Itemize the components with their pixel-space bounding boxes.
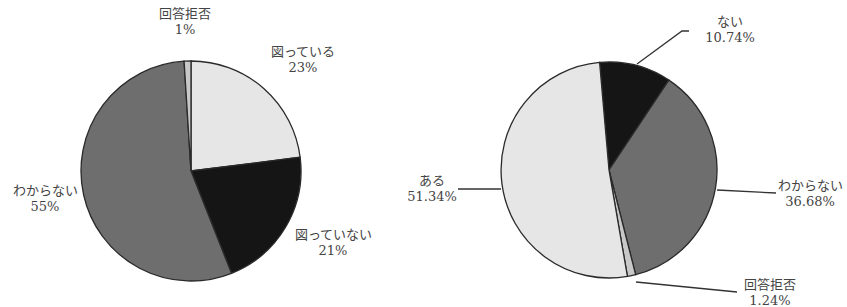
leader-line-kaito-kyohi [636, 282, 737, 292]
label-wakaranai-left: わからない55% [0, 183, 90, 215]
label-nai: ない10.74% [690, 14, 770, 46]
label-aru: ある51.34% [402, 173, 462, 205]
pie-slice [191, 61, 300, 171]
label-hakatte-iru: 図っている23% [253, 44, 353, 76]
label-wakaranai-right: わからない36.68% [770, 178, 847, 210]
pie-chart-left [81, 61, 301, 281]
label-hakatte-inai: 図っていない21% [278, 227, 388, 259]
leader-line-wakaranai [717, 190, 776, 193]
pie-chart-right [501, 62, 717, 278]
label-kaito-kyohi-left: 回答拒否1% [145, 6, 225, 38]
label-kaito-kyohi-right: 回答拒否1.24% [730, 277, 810, 307]
leader-line-nai [637, 31, 689, 64]
